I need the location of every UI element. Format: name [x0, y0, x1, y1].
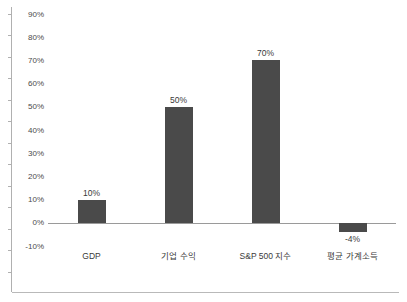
bar[interactable] [339, 223, 367, 232]
y-axis-label: 10% [10, 195, 44, 204]
y-axis-label: 70% [10, 56, 44, 65]
bar-value-label: 10% [62, 188, 122, 198]
bars-layer: 10%50%70%-4% [48, 14, 396, 246]
bar-chart: 90%80%70%60%50%40%30%20%10%0%-10% 10%50%… [0, 0, 407, 302]
y-axis-label: 40% [10, 126, 44, 135]
y-axis-label: -10% [10, 242, 44, 251]
y-axis-label: 20% [10, 172, 44, 181]
y-axis-label: 50% [10, 102, 44, 111]
bar-value-label: 50% [149, 95, 209, 105]
bar-value-label: 70% [236, 48, 296, 58]
y-axis-label: 0% [10, 218, 44, 227]
x-axis-label: 기업 수익 [134, 251, 224, 261]
x-axis-label: GDP [47, 251, 137, 261]
plot-area: 10%50%70%-4% [48, 14, 396, 246]
x-axis-label: 평균 가계소득 [308, 251, 398, 261]
bar[interactable] [165, 107, 193, 223]
frame-bottom-border [12, 292, 399, 293]
x-axis-label: S&P 500 지수 [221, 251, 311, 261]
bar-value-label: -4% [323, 234, 383, 244]
y-axis-label: 30% [10, 149, 44, 158]
y-axis-tick-labels: 90%80%70%60%50%40%30%20%10%0%-10% [0, 14, 44, 246]
y-axis-label: 60% [10, 79, 44, 88]
y-axis-label: 80% [10, 33, 44, 42]
bar[interactable] [252, 60, 280, 222]
bar[interactable] [78, 200, 106, 223]
y-axis-label: 90% [10, 10, 44, 19]
axis-tick [8, 272, 12, 273]
